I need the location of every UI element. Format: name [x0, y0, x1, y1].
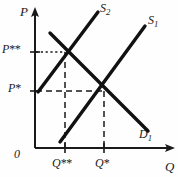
curves-group [38, 12, 148, 142]
origin-label: 0 [14, 148, 20, 160]
demand-letter: D [139, 127, 148, 141]
supply-shifted-curve-label: S2 [100, 2, 110, 17]
quantity-shifted-stars: ** [61, 156, 72, 170]
quantity-equilibrium-label: Q* [95, 157, 109, 169]
x-axis-label: Q [165, 160, 174, 173]
y-axis-label: P [20, 5, 28, 18]
quantity-equilibrium-letter: Q [95, 156, 104, 170]
quantity-shifted-letter: Q [52, 156, 61, 170]
price-equilibrium-label: P* [8, 82, 21, 94]
quantity-equilibrium-star: * [104, 156, 110, 170]
price-shifted-stars: ** [9, 42, 20, 56]
demand-subscript: 1 [148, 133, 152, 143]
price-shifted-label: P** [2, 43, 20, 55]
supply-shifted-subscript: 2 [106, 7, 110, 17]
quantity-shifted-label: Q** [52, 157, 72, 169]
supply-original-subscript: 1 [154, 19, 158, 29]
supply-demand-chart: P Q 0 P** P* Q** Q* S2 S1 D1 [0, 0, 178, 177]
price-equilibrium-star: * [15, 81, 21, 95]
supply-original-curve-label: S1 [148, 14, 158, 29]
axis-ticks [30, 52, 104, 153]
guide-lines [36, 52, 104, 147]
demand-curve-label: D1 [139, 128, 152, 143]
